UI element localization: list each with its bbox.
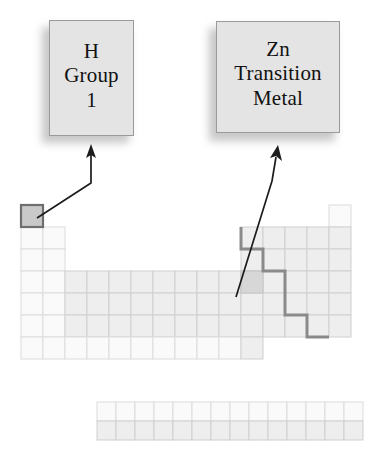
arrow-zinc-line xyxy=(236,157,276,297)
callout-arrows xyxy=(0,0,384,469)
periodic-table-figure: H Group 1 Zn Transition Metal xyxy=(0,0,384,469)
arrow-hydrogen-line xyxy=(37,155,91,218)
